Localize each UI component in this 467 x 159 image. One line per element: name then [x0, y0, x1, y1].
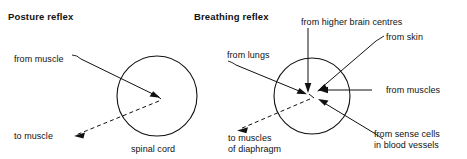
leader-from-lungs: [228, 61, 236, 65]
reflex-diagram-figure: Posture reflex from muscle to muscle spi…: [0, 0, 467, 159]
leader-from-skin: [376, 36, 384, 41]
label-from-skin: from skin: [386, 32, 423, 42]
leader-from-muscle: [72, 55, 81, 59]
afferent-arrow-from-lungs-line: [236, 65, 304, 93]
afferent-arrow-from-muscle-line: [81, 59, 159, 97]
diagram-canvas: Posture reflex from muscle to muscle spi…: [0, 0, 467, 159]
breathing-centre-node: [309, 94, 314, 98]
afferent-arrow-higher-brain-head: [305, 83, 312, 93]
panel-posture-reflex: Posture reflex from muscle to muscle spi…: [8, 11, 197, 154]
label-to-muscle: to muscle: [14, 131, 53, 141]
label-from-sense-cells-line1: from sense cells: [374, 129, 440, 139]
label-from-lungs: from lungs: [227, 50, 270, 60]
afferent-arrow-from-skin-line: [320, 41, 376, 89]
label-to-muscles-line2: of diaphragm: [228, 144, 281, 154]
label-spinal-cord: spinal cord: [131, 144, 175, 154]
panel-title-posture-reflex: Posture reflex: [8, 11, 74, 22]
label-from-muscle: from muscle: [14, 54, 64, 64]
label-to-muscles-line1: to muscles: [228, 133, 272, 143]
label-from-sense-cells-line2: in blood vessels: [374, 140, 439, 150]
efferent-arrow-to-muscle-line: [76, 101, 159, 135]
afferent-arrow-sense-cells-line: [321, 101, 374, 133]
afferent-arrow-from-lungs-head: [297, 88, 308, 94]
label-from-higher-brain-centres: from higher brain centres: [301, 17, 403, 27]
panel-breathing-reflex: Breathing reflex: [194, 11, 441, 154]
label-from-muscles: from muscles: [386, 85, 441, 95]
panel-title-breathing-reflex: Breathing reflex: [194, 11, 269, 22]
